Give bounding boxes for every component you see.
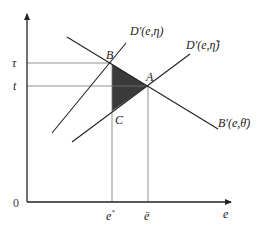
t-label: t [13,79,17,93]
origin-label: 0 [13,196,19,210]
shaded-triangle-bac [112,64,147,111]
e-bar-label: ē [144,209,150,223]
curve-d-eta-tilde [72,54,190,142]
diagram-canvas: 0 e τ t e* ē D′(e,η) D′(e,η̃) B′(e,θ̄) B… [0,0,268,228]
e-star-label: e* [106,208,115,223]
point-a-label: A [145,70,154,84]
tau-label: τ [12,56,17,70]
point-c-label: C [115,113,124,127]
label-d-eta-tilde: D′(e,η̃) [185,38,221,52]
x-axis-label: e [223,207,229,221]
label-d-eta: D′(e,η) [129,24,164,38]
label-b-theta-bar: B′(e,θ̄) [218,116,250,130]
point-b-label: B [106,48,114,62]
